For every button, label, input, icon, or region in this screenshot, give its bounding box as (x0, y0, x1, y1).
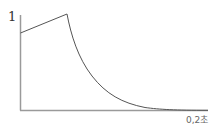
y-axis-max-label: 1 (8, 9, 16, 24)
signal-line (21, 14, 209, 110)
x-axis-max-label: 0,2초 (186, 113, 208, 126)
